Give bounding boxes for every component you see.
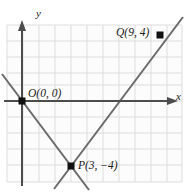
point-marker-O xyxy=(19,98,26,105)
y-axis-label: y xyxy=(36,8,41,19)
coordinate-plane-figure: y x O(0, 0) P(3, −4) Q(9, 4) xyxy=(0,0,188,192)
point-marker-P xyxy=(68,163,75,170)
x-axis-label: x xyxy=(176,91,181,102)
point-label-O: O(0, 0) xyxy=(28,88,61,100)
point-label-Q: Q(9, 4) xyxy=(116,27,149,39)
point-label-P: P(3, −4) xyxy=(78,160,118,172)
point-marker-Q xyxy=(157,32,164,39)
